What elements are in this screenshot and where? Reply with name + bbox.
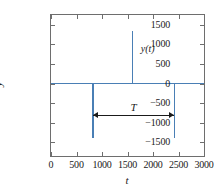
x-tick-top	[128, 15, 129, 19]
y-tick-left	[51, 44, 55, 45]
x-tick-label: 1500	[118, 160, 137, 170]
x-tick-bottom	[179, 152, 180, 156]
x-tick-bottom	[77, 152, 78, 156]
series-baseline	[51, 83, 204, 84]
y-tick-label: 500	[156, 59, 170, 69]
y-tick-left	[51, 25, 55, 26]
x-tick-label: 2500	[169, 160, 188, 170]
arrow-head-left-icon	[93, 112, 98, 118]
x-tick-bottom	[102, 152, 103, 156]
y-axis-title: y	[0, 82, 4, 87]
y-tick-label: −500	[150, 98, 170, 108]
x-tick-top	[51, 15, 52, 19]
series-impulse	[132, 31, 133, 84]
x-tick-top	[179, 15, 180, 19]
y-tick-label: −1500	[145, 137, 170, 147]
x-tick-bottom	[153, 152, 154, 156]
y-tick-right	[200, 123, 204, 124]
chart-figure: y(t)T 150010005000−500−1000−150005001000…	[0, 0, 217, 195]
plot-area: y(t)T	[51, 15, 204, 156]
y-tick-right	[200, 142, 204, 143]
x-tick-bottom	[51, 152, 52, 156]
x-tick-label: 2000	[143, 160, 162, 170]
y-tick-left	[51, 64, 55, 65]
x-tick-top	[102, 15, 103, 19]
plot-frame: y(t)T	[50, 14, 205, 157]
y-tick-right	[200, 25, 204, 26]
x-axis-title: t	[125, 174, 128, 186]
y-tick-label: −1000	[145, 118, 170, 128]
y-tick-label: 1500	[151, 20, 170, 30]
y-tick-right	[200, 103, 204, 104]
x-tick-top	[77, 15, 78, 19]
y-tick-right	[200, 64, 204, 65]
y-tick-left	[51, 103, 55, 104]
period-label: T	[131, 101, 137, 113]
y-tick-left	[51, 123, 55, 124]
y-tick-label: 0	[165, 79, 170, 89]
x-tick-label: 500	[69, 160, 83, 170]
y-tick-right	[200, 44, 204, 45]
x-tick-label: 3000	[194, 160, 213, 170]
x-tick-bottom	[128, 152, 129, 156]
y-tick-left	[51, 142, 55, 143]
x-tick-label: 0	[49, 160, 54, 170]
y-tick-label: 1000	[151, 39, 170, 49]
x-tick-label: 1000	[92, 160, 111, 170]
